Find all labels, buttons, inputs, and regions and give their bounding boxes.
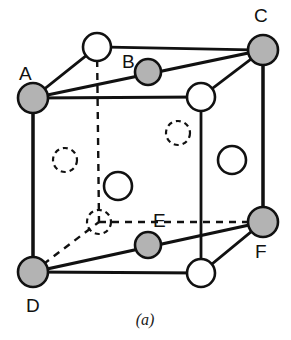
label-C: C — [254, 5, 268, 26]
label-F: F — [255, 241, 267, 262]
edge-front-bottom — [33, 272, 201, 273]
atom-B — [135, 59, 161, 85]
atom-back-top-left — [83, 33, 111, 61]
atom-C — [248, 35, 278, 65]
edge-front-top — [33, 97, 201, 98]
label-A: A — [19, 63, 32, 84]
atom-face-front — [104, 172, 132, 200]
label-D: D — [26, 295, 40, 316]
atom-face-right — [218, 146, 246, 174]
figure-container: ABCDEF (a) — [0, 0, 291, 340]
figure-caption: (a) — [136, 311, 155, 329]
atom-F — [248, 207, 278, 237]
atom-A — [18, 83, 48, 113]
unit-cell-diagram: ABCDEF (a) — [0, 0, 291, 340]
atom-E — [135, 232, 161, 258]
label-E: E — [153, 210, 166, 231]
atom-D — [18, 257, 48, 287]
label-B: B — [122, 51, 135, 72]
atom-front-bottom-right — [187, 259, 215, 287]
atom-front-top-right — [187, 83, 215, 111]
